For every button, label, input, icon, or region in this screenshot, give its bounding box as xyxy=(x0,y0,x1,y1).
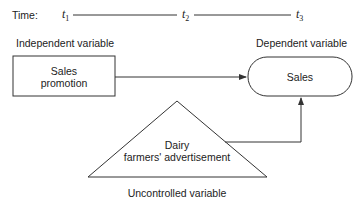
sales-node-label: Sales xyxy=(248,71,352,83)
dairy-advertisement-label: Dairy farmers' advertisement xyxy=(117,139,237,163)
independent-variable-heading: Independent variable xyxy=(16,37,114,49)
sales-promotion-label: Sales promotion xyxy=(13,65,115,89)
uncontrolled-variable-heading: Uncontrolled variable xyxy=(117,187,237,199)
diagram-canvas xyxy=(0,0,361,203)
time-label: Time: xyxy=(12,9,38,21)
dependent-variable-heading: Dependent variable xyxy=(256,37,347,49)
timeline-point-t1: t1 xyxy=(62,8,69,25)
timeline-point-t3: t3 xyxy=(296,8,303,25)
timeline-point-t2: t2 xyxy=(182,8,189,25)
arrow-dairy-to-sales xyxy=(225,98,301,142)
